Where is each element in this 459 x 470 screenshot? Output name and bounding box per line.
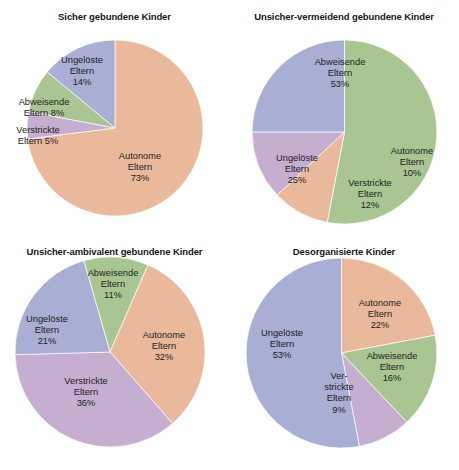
panel-ambivalent: Unsicher-ambivalent gebundene Kinder Abw… <box>0 235 229 470</box>
pie-chart-secure: AutonomeEltern73%UngelösteEltern14%Abwei… <box>0 0 229 235</box>
panel-secure: Sicher gebundene Kinder AutonomeEltern73… <box>0 0 229 235</box>
panel-disorganized: Desorganisierte Kinder AutonomeEltern22%… <box>229 235 459 470</box>
pie-chart-ambivalent: AbweisendeEltern11%AutonomeEltern32%Vers… <box>0 235 229 470</box>
pie-chart-avoidant: AbweisendeEltern53%UngelösteEltern25%Ver… <box>229 0 459 235</box>
panel-avoidant: Unsicher-vermeidend gebundene Kinder Abw… <box>229 0 459 235</box>
pie-chart-figure: Sicher gebundene Kinder AutonomeEltern73… <box>0 0 459 470</box>
pie-chart-disorganized: AutonomeEltern22%AbweisendeEltern16%Ver-… <box>229 235 459 470</box>
pie-slice <box>252 40 344 132</box>
